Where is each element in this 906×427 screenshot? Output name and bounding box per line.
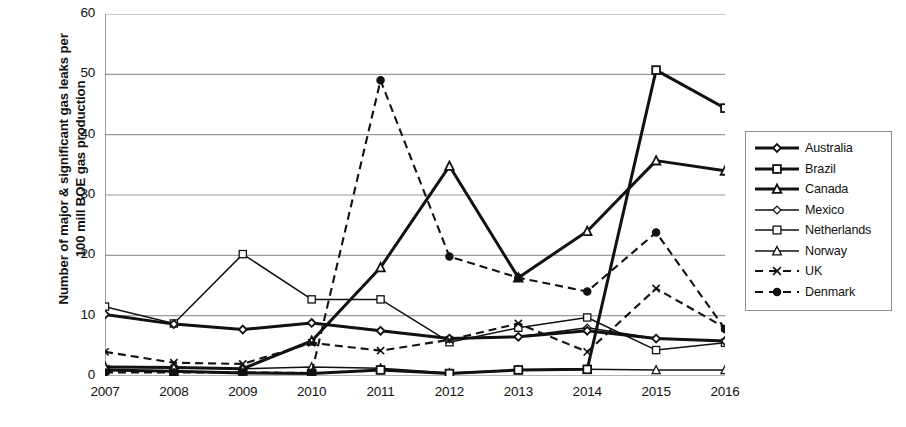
data-point-circle [721,325,725,332]
series-canada [105,156,725,373]
legend-key-denmark [753,285,801,299]
data-point-square [377,366,385,374]
marker-circle [105,369,109,376]
data-point-circle [308,369,315,376]
data-point-diamond [105,311,109,319]
x-tick-label: 2012 [419,384,479,399]
chart-legend: AustraliaBrazilCanadaMexicoNetherlandsNo… [745,131,892,311]
x-tick-label: 2007 [75,384,135,399]
legend-key-swatch [753,141,801,155]
legend-key-swatch [753,244,801,258]
y-axis-title-line1: Number of major & significant gas leaks … [56,0,73,339]
x-tick-label: 2010 [282,384,342,399]
legend-key-uk [753,264,801,278]
marker-diamond [377,327,385,335]
legend-label: Brazil [805,162,836,176]
plot-area [105,14,725,376]
data-point-diamond [514,333,522,341]
marker-diamond [308,319,316,327]
marker-circle [446,253,453,260]
legend-key-australia [753,141,801,155]
data-point-circle [515,274,522,281]
x-tick-label: 2008 [144,384,204,399]
data-point-square [308,296,315,303]
legend-key-mexico [753,203,801,217]
data-point-diamond [308,319,316,327]
x-tick-label: 2011 [351,384,411,399]
legend-label: Canada [805,182,848,196]
legend-item-australia[interactable]: Australia [746,138,891,159]
series-line [105,70,725,373]
marker-triangle [652,156,661,164]
marker-square [377,296,384,303]
data-point-square [105,303,109,310]
data-point-x [653,285,660,292]
marker-triangle [445,162,454,170]
legend-label: UK [805,264,822,278]
legend-item-netherlands[interactable]: Netherlands [746,220,891,241]
marker-circle [584,288,591,295]
marker-square [377,366,385,374]
data-point-triangle [652,156,661,164]
marker-diamond [514,333,522,341]
legend-item-mexico[interactable]: Mexico [746,200,891,221]
data-point-square [377,296,384,303]
data-point-diamond [773,206,781,214]
marker-square [721,104,725,112]
legend-key-swatch [753,223,801,237]
legend-item-brazil[interactable]: Brazil [746,159,891,180]
data-point-square [584,314,591,321]
legend-label: Australia [805,141,853,155]
data-point-square [773,165,781,173]
marker-circle [239,369,246,376]
x-tick-label: 2009 [213,384,273,399]
legend-item-uk[interactable]: UK [746,261,891,282]
y-tick-label: 50 [61,65,95,80]
data-point-triangle [445,162,454,170]
legend-key-netherlands [753,223,801,237]
marker-circle [170,369,177,376]
marker-square [584,314,591,321]
marker-square [583,365,591,373]
x-tick-label: 2015 [626,384,686,399]
legend-key-canada [753,182,801,196]
series-brazil [105,66,725,376]
marker-triangle [773,185,782,193]
legend-item-norway[interactable]: Norway [746,241,891,262]
marker-square [773,165,781,173]
legend-item-denmark[interactable]: Denmark [746,282,891,303]
marker-square [308,296,315,303]
data-point-circle [584,288,591,295]
y-tick-label: 0 [61,367,95,382]
legend-label: Norway [805,244,847,258]
y-tick-label: 60 [61,5,95,20]
legend-item-canada[interactable]: Canada [746,179,891,200]
marker-square [773,226,781,234]
marker-circle [308,369,315,376]
y-tick-label: 40 [61,126,95,141]
marker-square [446,370,454,376]
legend-key-swatch [753,182,801,196]
marker-diamond [773,206,781,214]
legend-label: Mexico [805,203,844,217]
marker-circle [515,274,522,281]
data-point-square [773,226,781,234]
marker-square [239,251,246,258]
series-line [105,80,725,373]
marker-diamond [239,326,247,334]
marker-square [652,66,660,74]
data-point-diamond [652,335,660,343]
marker-circle [653,229,660,236]
legend-key-swatch [753,203,801,217]
data-point-triangle [773,185,782,193]
data-point-circle [773,288,780,295]
data-point-circle [105,369,109,376]
series-line [105,314,725,341]
data-point-square [652,66,660,74]
data-point-diamond [773,144,781,152]
marker-diamond [105,311,109,319]
data-point-circle [170,369,177,376]
data-point-square [446,370,454,376]
data-point-square [653,346,660,353]
x-tick-label: 2014 [557,384,617,399]
